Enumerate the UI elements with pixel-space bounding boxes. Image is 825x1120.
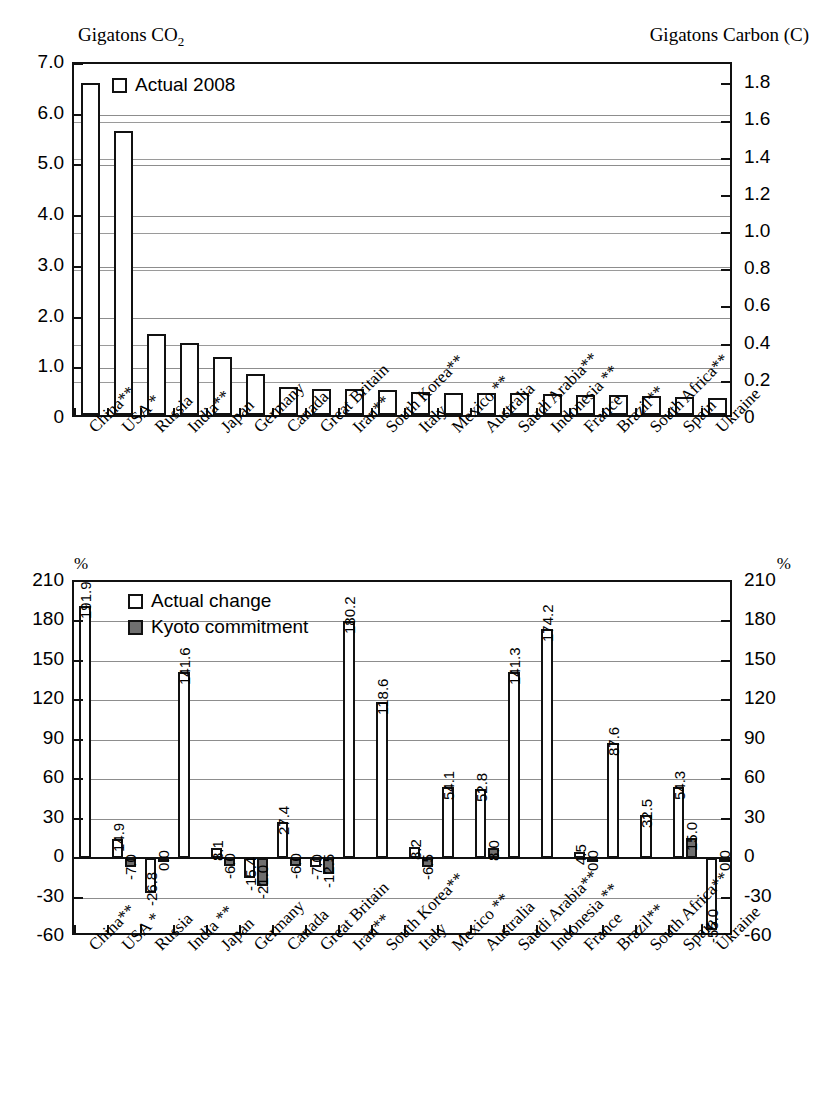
cat-tick-0 [74, 408, 76, 415]
bottom-left-tick-0: 0 [4, 846, 64, 865]
bottom-value-actual-17: 32.5 [639, 799, 654, 828]
tick-left-30 [74, 818, 83, 820]
bottom-left-tick-30: 30 [4, 807, 64, 826]
tick-right-120 [721, 699, 730, 701]
bottom-value-kyoto-10: -6.5 [420, 854, 435, 880]
tick-left-60 [74, 778, 83, 780]
top-chart-bars [74, 64, 730, 415]
legend-item-actual-change: Actual change [128, 590, 308, 612]
emissions-change-chart: % % 191.914.9-7.0-26.80.0141.68.1-6.0-15… [0, 540, 825, 1120]
bottom-value-kyoto-6: -6.0 [288, 853, 303, 879]
top-right-tick-1.8: 1.8 [744, 72, 804, 91]
bottom-value-actual-8: 180.2 [342, 597, 357, 635]
legend-swatch-filled [128, 620, 143, 635]
bottom-cat-tick-0 [74, 925, 76, 933]
bottom-value-actual-0: 191.9 [78, 581, 93, 619]
bottom-value-kyoto-4: -6.0 [222, 853, 237, 879]
tick-left--30 [74, 897, 83, 899]
bottom-bar-actual-8 [343, 621, 355, 858]
legend-label-kyoto-commitment: Kyoto commitment [151, 616, 308, 638]
tick-right-0 [721, 857, 730, 859]
bottom-left-tick-90: 90 [4, 728, 64, 747]
tick-mark-7.0 [74, 63, 83, 65]
bottom-right-tick-90: 90 [744, 728, 804, 747]
bottom-value-actual-6: 27.4 [276, 806, 291, 835]
bottom-value-actual-1: 14.9 [111, 822, 126, 851]
tick-mark-3.0 [74, 266, 83, 268]
bottom-chart-legend: Actual change Kyoto commitment [128, 590, 308, 642]
bottom-value-kyoto-2: 0.0 [156, 850, 171, 871]
top-bar-0 [81, 83, 101, 415]
bottom-chart-left-axis-title: % [74, 554, 88, 574]
bottom-value-kyoto-18: 15.0 [684, 822, 699, 851]
bottom-value-actual-9: 118.6 [375, 679, 390, 715]
tick-right-150 [721, 660, 730, 662]
bottom-left-tick-60: 60 [4, 767, 64, 786]
tick-mark-carbon-1.2 [721, 195, 730, 197]
tick-left-180 [74, 620, 83, 622]
bottom-bar-actual-16 [607, 743, 619, 858]
tick-mark-4.0 [74, 215, 83, 217]
tick-mark-5.0 [74, 164, 83, 166]
top-bar-1 [114, 131, 134, 415]
tick-right-60 [721, 778, 730, 780]
top-right-tick-1.2: 1.2 [744, 184, 804, 203]
tick-mark-carbon-1.0 [721, 232, 730, 234]
bottom-right-tick--30: -30 [744, 886, 804, 905]
bottom-left-tick-180: 180 [4, 609, 64, 628]
top-left-tick-2.0: 2.0 [4, 306, 64, 325]
top-right-tick-0.4: 0.4 [744, 333, 804, 352]
tick-mark-6.0 [74, 114, 83, 116]
tick-mark-carbon-0.4 [721, 344, 730, 346]
bottom-bar-actual-13 [508, 672, 520, 858]
top-left-tick-3.0: 3.0 [4, 255, 64, 274]
tick-left-0 [74, 857, 83, 859]
bottom-value-actual-2: -26.8 [144, 872, 159, 906]
bottom-right-tick-180: 180 [744, 609, 804, 628]
bottom-value-kyoto-12: 8.0 [486, 840, 501, 861]
bottom-bar-actual-3 [178, 672, 190, 858]
left-axis-title-subscript: 2 [178, 34, 185, 49]
bottom-value-actual-18: 54.3 [672, 770, 687, 799]
bottom-value-actual-11: 54.1 [441, 771, 456, 800]
top-chart-plot-area [72, 62, 732, 417]
tick-right-30 [721, 818, 730, 820]
top-chart-right-axis-title: Gigatons Carbon (C) [650, 24, 809, 46]
bottom-right-tick-30: 30 [744, 807, 804, 826]
top-chart-legend: Actual 2008 [112, 74, 235, 100]
top-left-tick-1.0: 1.0 [4, 356, 64, 375]
tick-mark-carbon-0.6 [721, 306, 730, 308]
bottom-bar-actual-0 [79, 606, 91, 858]
top-left-tick-0: 0 [4, 407, 64, 426]
legend-swatch-open [112, 78, 127, 93]
bottom-left-tick-150: 150 [4, 649, 64, 668]
bottom-right-tick-60: 60 [744, 767, 804, 786]
tick-right-180 [721, 620, 730, 622]
top-left-tick-5.0: 5.0 [4, 153, 64, 172]
bottom-value-actual-3: 141.6 [177, 647, 192, 685]
legend-label-actual-2008: Actual 2008 [135, 74, 235, 96]
co2-emissions-chart: Gigatons CO2 Gigatons Carbon (C) 7.06.05… [0, 0, 825, 540]
bottom-value-actual-14: 174.2 [540, 605, 555, 643]
tick-mark-carbon-1.8 [721, 83, 730, 85]
bottom-left-tick--60: -60 [4, 925, 64, 944]
bottom-bar-actual-9 [376, 702, 388, 858]
bottom-right-tick-150: 150 [744, 649, 804, 668]
tick-right-90 [721, 739, 730, 741]
tick-mark-carbon-1.6 [721, 121, 730, 123]
tick-left-90 [74, 739, 83, 741]
tick-mark-carbon-0.2 [721, 381, 730, 383]
tick-mark-carbon-1.4 [721, 158, 730, 160]
top-left-tick-6.0: 6.0 [4, 103, 64, 122]
legend-swatch-open [128, 594, 143, 609]
tick-left-150 [74, 660, 83, 662]
tick-mark-1.0 [74, 367, 83, 369]
bottom-value-kyoto-7: -12.5 [321, 853, 336, 887]
bottom-right-tick-210: 210 [744, 570, 804, 589]
legend-item-actual-2008: Actual 2008 [112, 74, 235, 96]
bottom-right-tick-120: 120 [744, 688, 804, 707]
bottom-value-actual-12: 52.8 [474, 772, 489, 801]
tick-left-120 [74, 699, 83, 701]
tick-right--30 [721, 897, 730, 899]
top-chart-left-axis-title: Gigatons CO2 [78, 24, 184, 50]
